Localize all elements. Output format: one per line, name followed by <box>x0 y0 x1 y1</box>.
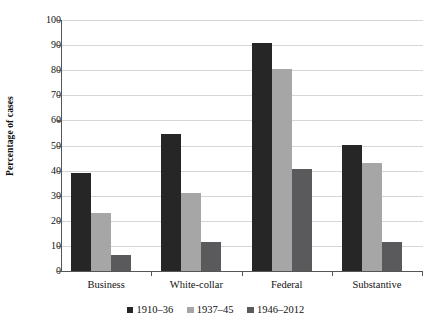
gridline <box>62 95 423 96</box>
x-axis-category-label: Business <box>61 278 151 291</box>
legend-label: 1937–45 <box>197 304 234 316</box>
bar-substantive-series-3 <box>382 242 402 271</box>
y-axis-tick-label: 20 <box>15 216 61 226</box>
y-axis-tick-label: 90 <box>15 40 61 50</box>
y-axis-tick-label: 100 <box>15 15 61 25</box>
bar-white-collar-series-1 <box>161 134 181 271</box>
y-axis-tick-label: 40 <box>15 166 61 176</box>
y-axis-tick-label: 10 <box>15 241 61 251</box>
bar-business-series-2 <box>91 213 111 271</box>
y-axis-tick-label: 0 <box>15 266 61 276</box>
plot-area <box>61 20 423 272</box>
y-axis-ticks: 0102030405060708090100 <box>8 20 61 271</box>
gridline <box>62 146 423 147</box>
bar-substantive-series-2 <box>362 163 382 271</box>
legend-item-3[interactable]: 1946–2012 <box>247 304 304 316</box>
bar-business-series-1 <box>71 173 91 271</box>
gridline <box>62 45 423 46</box>
bar-white-collar-series-3 <box>201 242 221 271</box>
bar-federal-series-3 <box>292 169 312 271</box>
y-axis-tick-label: 60 <box>15 115 61 125</box>
x-axis-tick-mark <box>242 271 243 276</box>
gridline <box>62 120 423 121</box>
legend-item-2[interactable]: 1937–45 <box>187 304 233 316</box>
bar-business-series-3 <box>111 255 131 271</box>
gridline <box>62 20 423 21</box>
legend-label: 1910–36 <box>136 304 173 316</box>
x-axis-tick-mark <box>332 271 333 276</box>
legend-label: 1946–2012 <box>257 304 304 316</box>
bar-chart-figure: Percentage of cases 01020304050607080901… <box>0 0 431 336</box>
bar-federal-series-2 <box>272 69 292 271</box>
chart-legend: 1910–361937–451946–2012 <box>0 304 431 316</box>
x-axis-category-label: Substantive <box>332 278 422 291</box>
y-axis-tick-label: 50 <box>15 141 61 151</box>
x-axis-category-label: Federal <box>242 278 332 291</box>
legend-swatch-icon <box>187 307 194 314</box>
legend-swatch-icon <box>247 307 254 314</box>
legend-item-1[interactable]: 1910–36 <box>127 304 173 316</box>
bar-federal-series-1 <box>252 43 272 271</box>
x-axis-tick-mark <box>422 271 423 276</box>
bar-substantive-series-1 <box>342 145 362 272</box>
x-axis-category-label: White-collar <box>151 278 241 291</box>
gridline <box>62 70 423 71</box>
bar-white-collar-series-2 <box>181 193 201 271</box>
legend-swatch-icon <box>127 307 134 314</box>
y-axis-tick-label: 30 <box>15 191 61 201</box>
x-axis-tick-mark <box>151 271 152 276</box>
y-axis-tick-label: 70 <box>15 90 61 100</box>
y-axis-tick-label: 80 <box>15 65 61 75</box>
